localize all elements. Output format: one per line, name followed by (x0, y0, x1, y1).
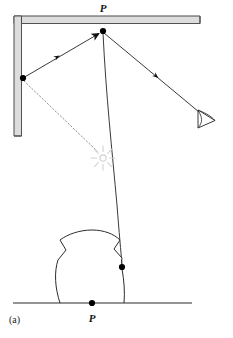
object-blob (56, 230, 125, 303)
point-p-ground (89, 300, 95, 306)
curved-light-path (103, 33, 122, 265)
point-object-contact (119, 264, 125, 270)
figure-container: P P (a) (0, 0, 233, 338)
point-wall-reflection (20, 75, 26, 81)
reflected-ray-line (104, 33, 199, 112)
incident-ray-group (23, 34, 99, 79)
label-p-top: P (100, 2, 107, 14)
label-p-bottom: P (89, 312, 96, 324)
wall-top-arm (14, 16, 200, 24)
incident-ray-line (23, 34, 99, 79)
wall-corner-mirror (14, 16, 200, 136)
observer-eye-icon (198, 110, 215, 128)
wall-left-arm (14, 16, 22, 136)
point-p-ceiling (100, 28, 106, 34)
light-source-starburst-icon (91, 146, 115, 170)
virtual-ray-dotted (24, 81, 97, 151)
ray-diagram-canvas: P P (a) (0, 0, 233, 338)
panel-label: (a) (9, 314, 20, 326)
reflected-ray-group (104, 33, 199, 112)
